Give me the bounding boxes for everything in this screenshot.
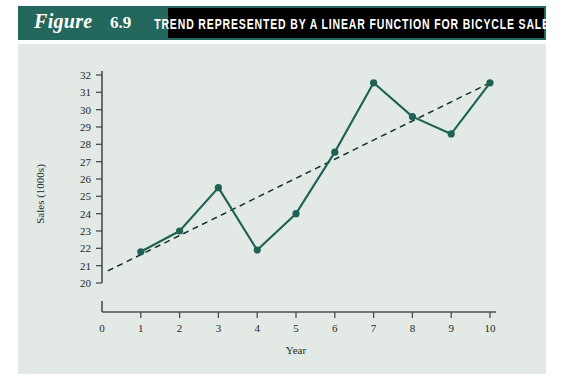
x-tick-label: 1 (138, 322, 144, 334)
y-tick-label: 21 (80, 260, 91, 272)
data-point (292, 210, 299, 217)
figure-banner: Figure 6.9 TREND REPRESENTED BY A LINEAR… (18, 6, 546, 40)
x-tick-label: 2 (177, 322, 183, 334)
data-point (176, 227, 183, 234)
y-axis-label: Sales (1000s) (34, 164, 47, 224)
y-axis-ticks: 20212223242526272829303132 (80, 69, 102, 289)
x-tick-label: 4 (254, 322, 260, 334)
x-tick-label: 8 (410, 322, 416, 334)
x-tick-label: 3 (216, 322, 222, 334)
data-point-markers (137, 79, 493, 255)
data-point (448, 130, 455, 137)
figure-title-bar: TREND REPRESENTED BY A LINEAR FUNCTION F… (168, 8, 544, 38)
y-tick-label: 24 (80, 208, 92, 220)
y-tick-label: 30 (80, 104, 92, 116)
data-point (409, 113, 416, 120)
origin-tick-label: 0 (99, 322, 105, 334)
data-point (486, 79, 493, 86)
figure-title: TREND REPRESENTED BY A LINEAR FUNCTION F… (154, 14, 558, 31)
trend-line (108, 83, 490, 271)
data-point (254, 246, 261, 253)
y-tick-label: 32 (80, 69, 91, 81)
figure-number: 6.9 (110, 13, 131, 33)
y-tick-label: 28 (80, 138, 92, 150)
figure-word: Figure (34, 10, 174, 36)
data-point (215, 184, 222, 191)
x-tick-label: 7 (371, 322, 377, 334)
y-tick-label: 23 (80, 225, 92, 237)
data-point (331, 149, 338, 156)
x-tick-label: 6 (332, 322, 338, 334)
y-tick-label: 26 (80, 173, 92, 185)
chart-area: 20212223242526272829303132 12345678910 S… (18, 44, 546, 374)
y-tick-label: 31 (80, 86, 91, 98)
x-tick-label: 5 (293, 322, 299, 334)
x-axis-ticks: 12345678910 (138, 312, 496, 334)
y-tick-label: 25 (80, 190, 92, 202)
x-tick-label: 10 (485, 322, 497, 334)
x-tick-label: 9 (448, 322, 454, 334)
y-tick-label: 22 (80, 242, 91, 254)
data-point (370, 79, 377, 86)
banner-inner: Figure 6.9 TREND REPRESENTED BY A LINEAR… (18, 6, 546, 40)
y-tick-label: 27 (80, 156, 92, 168)
y-tick-label: 20 (80, 277, 92, 289)
y-tick-label: 29 (80, 121, 92, 133)
data-point (137, 248, 144, 255)
line-chart: 20212223242526272829303132 12345678910 S… (18, 44, 546, 374)
x-axis-label: Year (286, 344, 307, 356)
figure-page: Figure 6.9 TREND REPRESENTED BY A LINEAR… (0, 0, 562, 391)
